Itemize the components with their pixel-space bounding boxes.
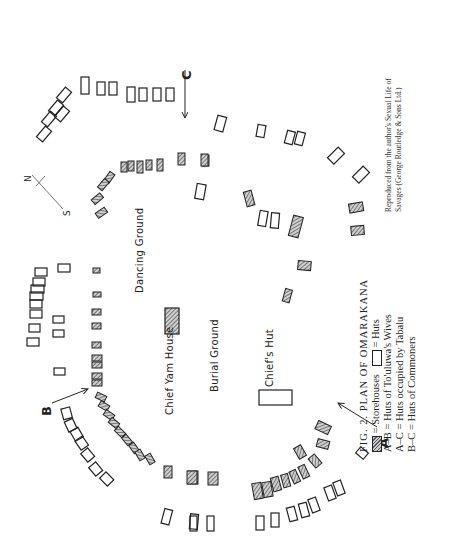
hut-legend-icon <box>372 350 382 366</box>
legend-row-bc: B–C = Huts of Commoners <box>406 279 418 452</box>
huts-outer-top <box>36 77 369 200</box>
chiefs-hut <box>259 390 292 405</box>
figure-caption: FIG. 2. PLAN OF OMARAKANA = Storehouses … <box>358 279 418 452</box>
dancing-ground-label: Dancing Ground <box>134 208 145 293</box>
credit-note: Reproduced from the author's Sexual Life… <box>384 78 403 212</box>
credit-line-2: Savages (George Routledge & Sons Ltd.) <box>394 78 404 212</box>
inner-central-buildings <box>243 190 364 303</box>
credit-line-1: Reproduced from the author's Sexual Life… <box>384 78 394 212</box>
compass-south-label: S <box>62 210 72 216</box>
legend-huts: Huts <box>370 319 381 339</box>
storehouses-inner-top <box>91 153 209 218</box>
chief-yam-house-label: Chief Yam House <box>164 326 175 415</box>
compass <box>32 175 63 209</box>
burial-ground-label: Burial Ground <box>209 319 220 392</box>
legend-row-storehouses-huts: = Storehouses = Huts <box>370 279 382 452</box>
huts-outer-left <box>27 264 70 375</box>
legend-row-ac: A–C = Huts occupied by Tabalu <box>394 279 406 452</box>
chiefs-hut-label: Chief's Hut <box>264 329 275 387</box>
storehouses-left-column <box>92 268 102 386</box>
marker-c: C <box>179 70 194 80</box>
compass-north-label: N <box>23 175 33 182</box>
storehouses-lower-arc <box>95 392 331 499</box>
figure-title: PLAN OF OMARAKANA <box>358 279 369 412</box>
storehouse-legend-icon <box>372 436 382 452</box>
figure-number: FIG. 2. <box>358 415 369 452</box>
legend-row-ab: A–B = Huts of To'uluwa's Wives <box>382 279 394 452</box>
marker-b: B <box>39 406 54 416</box>
legend-storehouses: Storehouses <box>370 374 381 425</box>
